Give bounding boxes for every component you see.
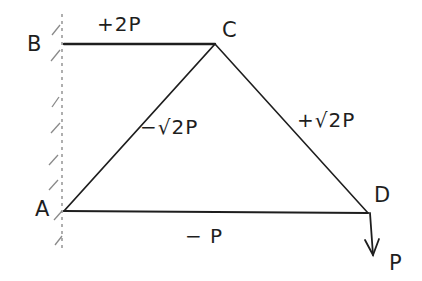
node-label-C: C — [222, 20, 238, 41]
force-label-AC: −√2P — [140, 117, 198, 137]
force-label-CD: +√2P — [297, 110, 355, 130]
member-AD — [64, 211, 368, 213]
force-label-BC: +2P — [97, 14, 142, 34]
force-label-AD: − P — [185, 226, 223, 246]
node-label-A: A — [35, 199, 50, 220]
load-arrow-icon — [365, 213, 379, 255]
wall-hatching — [49, 25, 62, 245]
node-label-B: B — [27, 34, 42, 55]
wall-support — [49, 14, 62, 248]
node-label-D: D — [374, 185, 391, 206]
load-label: P — [389, 253, 403, 274]
